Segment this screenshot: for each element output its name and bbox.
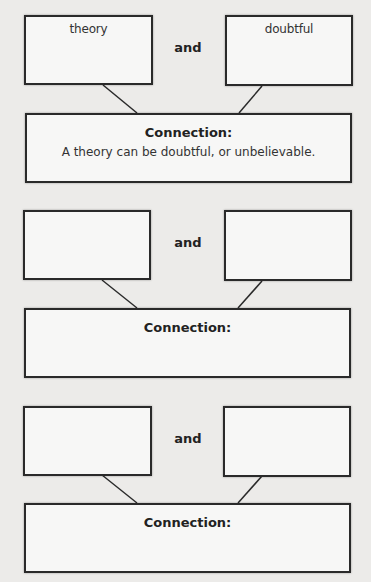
connection-label-3: Connection:	[26, 515, 349, 530]
word-box-right-2[interactable]	[224, 210, 352, 281]
connection-box-2[interactable]: Connection:	[24, 308, 351, 378]
word-right-1: doubtful	[227, 22, 351, 36]
and-label-3: and	[158, 431, 218, 446]
and-label-1: and	[158, 40, 218, 55]
connector-lines	[0, 0, 371, 582]
and-label-2: and	[158, 235, 218, 250]
word-box-left-2[interactable]	[23, 210, 151, 280]
connection-box-1[interactable]: Connection: A theory can be doubtful, or…	[25, 113, 352, 183]
word-box-left-3[interactable]	[23, 406, 152, 476]
connection-label-1: Connection:	[27, 125, 350, 140]
word-box-right-3[interactable]	[223, 406, 351, 477]
word-box-right-1[interactable]: doubtful	[225, 15, 353, 86]
connection-box-3[interactable]: Connection:	[24, 503, 351, 573]
connection-text-1: A theory can be doubtful, or unbelievabl…	[27, 145, 350, 159]
word-left-1: theory	[26, 22, 151, 36]
connection-label-2: Connection:	[26, 320, 349, 335]
word-box-left-1[interactable]: theory	[24, 15, 153, 85]
